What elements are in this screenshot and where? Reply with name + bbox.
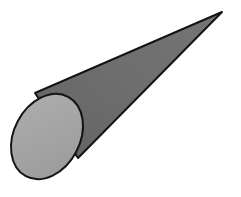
- cone-figure: [0, 0, 241, 197]
- figure-canvas: [0, 0, 241, 197]
